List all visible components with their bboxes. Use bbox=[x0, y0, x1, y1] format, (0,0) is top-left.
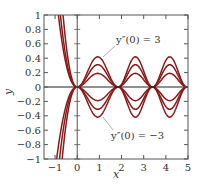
solution-curve bbox=[60, 87, 187, 159]
x-tick-label: 3 bbox=[141, 162, 147, 173]
annotation-top: y″(0) = 3 bbox=[115, 34, 161, 45]
y-tick-label: −0.4 bbox=[17, 110, 41, 121]
y-tick-label: 0.2 bbox=[25, 67, 41, 78]
y-tick-label: −0.2 bbox=[17, 96, 41, 107]
y-tick-label: 0.4 bbox=[25, 53, 41, 64]
solution-curve bbox=[60, 15, 187, 87]
y-tick-label: 0 bbox=[35, 82, 41, 93]
x-tick-label: 1 bbox=[96, 162, 102, 173]
solution-curve bbox=[57, 87, 187, 159]
x-tick-label: 4 bbox=[163, 162, 169, 173]
x-tick-label: 0 bbox=[74, 162, 80, 173]
annotation-leader-bottom bbox=[103, 117, 113, 130]
x-axis-label: x bbox=[113, 168, 120, 181]
axes: −1012345−1−0.8−0.6−0.4−0.200.20.40.60.81 bbox=[17, 10, 191, 174]
y-axis-label: y bbox=[2, 88, 15, 96]
y-tick-label: 0.8 bbox=[25, 24, 41, 35]
y-tick-label: −0.6 bbox=[17, 125, 41, 136]
y-tick-label: 1 bbox=[35, 10, 41, 21]
chart: −1012345−1−0.8−0.6−0.4−0.200.20.40.60.81… bbox=[0, 0, 199, 187]
annotation-leader-top bbox=[103, 46, 115, 57]
x-tick-label: 5 bbox=[185, 162, 191, 173]
y-tick-label: −1 bbox=[26, 154, 41, 165]
y-tick-label: −0.8 bbox=[17, 139, 41, 150]
x-tick-label: 2 bbox=[118, 162, 124, 173]
x-tick-label: −1 bbox=[48, 162, 63, 173]
annotation-bottom: y″(0) = −3 bbox=[110, 130, 164, 141]
y-tick-label: 0.6 bbox=[25, 38, 41, 49]
